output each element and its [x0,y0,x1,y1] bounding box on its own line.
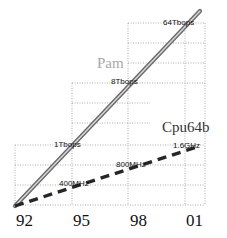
label-1tbops: 1Tbops [54,140,81,149]
x-tick-98: 98 [130,211,147,230]
label-8tbops: 8Tbops [111,77,138,86]
x-tick-92: 92 [16,211,33,230]
label-800mhz: 800MHz [116,160,146,169]
series-label-pam: Pam [97,55,124,71]
x-tick-01: 01 [186,211,203,230]
label-1-6ghz: 1.6GHz [173,141,200,150]
series-label-cpu64b: Cpu64b [162,119,210,135]
chart: 64Tbops Pam 8Tbops 1Tbops Cpu64b 1.6GHz … [0,0,227,238]
label-64tbops: 64Tbops [163,18,194,27]
x-tick-95: 95 [73,211,90,230]
label-400mhz: 400MHz [59,179,89,188]
x-axis: 92 95 98 01 [16,211,203,230]
